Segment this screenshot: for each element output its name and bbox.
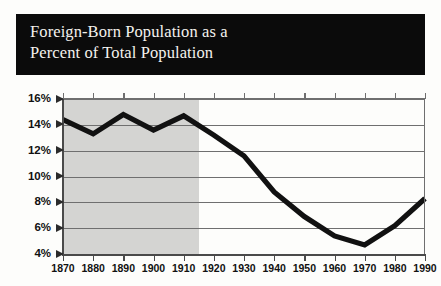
- y-axis-tick: [56, 198, 64, 206]
- x-axis-label: 1900: [138, 262, 168, 274]
- x-axis-tick-top: [93, 93, 94, 99]
- axis-right: [424, 99, 425, 255]
- x-axis-label: 1920: [199, 262, 229, 274]
- page-title: Foreign-Born Population as a Percent of …: [30, 21, 228, 63]
- x-axis-tick-top: [184, 93, 185, 99]
- x-axis-tick: [244, 254, 245, 261]
- x-axis-label: 1870: [48, 262, 78, 274]
- x-axis-tick-top: [154, 93, 155, 99]
- x-axis-tick: [395, 254, 396, 261]
- x-axis-tick: [63, 254, 64, 261]
- x-axis-label: 1950: [289, 262, 319, 274]
- y-axis-label: 16%: [28, 92, 51, 104]
- y-axis-tick: [56, 120, 64, 128]
- x-axis-tick: [184, 254, 185, 261]
- x-axis-label: 1970: [350, 262, 380, 274]
- y-axis-tick: [56, 172, 64, 180]
- x-axis-tick-top: [63, 93, 64, 99]
- plot-region: [63, 99, 425, 254]
- x-axis-tick-top: [395, 93, 396, 99]
- y-axis-tick: [56, 146, 64, 154]
- x-axis-tick: [335, 254, 336, 261]
- y-axis-label: 14%: [28, 118, 51, 130]
- x-axis-tick: [123, 254, 124, 261]
- y-axis-label: 8%: [34, 195, 51, 207]
- y-axis-label: 4%: [34, 247, 51, 259]
- x-axis-tick-top: [244, 93, 245, 99]
- chart-figure: Foreign-Born Population as a Percent of …: [0, 0, 441, 286]
- chart-area: 16%14%12%10%8%6%4% 187018801890190019101…: [0, 80, 441, 286]
- x-axis-tick-top: [335, 93, 336, 99]
- x-axis-label: 1940: [259, 262, 289, 274]
- data-line: [63, 99, 425, 254]
- x-axis-label: 1960: [319, 262, 349, 274]
- x-axis-tick: [154, 254, 155, 261]
- y-axis-tick: [56, 224, 64, 232]
- x-axis-tick: [425, 254, 426, 261]
- x-axis-tick: [274, 254, 275, 261]
- x-axis-label: 1910: [169, 262, 199, 274]
- x-axis-tick: [304, 254, 305, 261]
- x-axis-tick-top: [304, 93, 305, 99]
- x-axis-tick-top: [214, 93, 215, 99]
- x-axis-label: 1980: [380, 262, 410, 274]
- y-axis-label: 6%: [34, 221, 51, 233]
- x-axis-tick: [365, 254, 366, 261]
- x-axis-label: 1890: [108, 262, 138, 274]
- x-axis-tick-top: [274, 93, 275, 99]
- x-axis-tick: [214, 254, 215, 261]
- y-axis-label: 12%: [28, 144, 51, 156]
- x-axis-tick-top: [365, 93, 366, 99]
- x-axis-tick-top: [123, 93, 124, 99]
- x-axis-label: 1990: [410, 262, 440, 274]
- x-axis-label: 1930: [229, 262, 259, 274]
- x-axis-tick: [93, 254, 94, 261]
- x-axis-tick-top: [425, 93, 426, 99]
- y-axis-label: 10%: [28, 170, 51, 182]
- x-axis-label: 1880: [78, 262, 108, 274]
- title-banner: Foreign-Born Population as a Percent of …: [16, 14, 425, 75]
